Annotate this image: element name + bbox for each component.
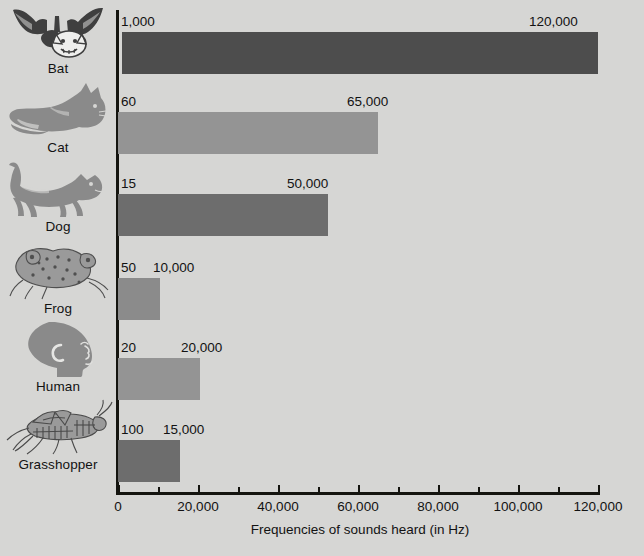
category-cell-frog: Frog xyxy=(0,242,116,316)
category-label-dog: Dog xyxy=(0,219,116,234)
x-axis-title: Frequencies of sounds heard (in Hz) xyxy=(118,522,602,537)
x-tick-label-40000: 40,000 xyxy=(257,499,298,514)
x-tick-60000 xyxy=(358,485,360,493)
x-minor-tick-110000 xyxy=(558,487,560,493)
bar-max-label-frog: 10,000 xyxy=(153,260,194,276)
x-tick-120000 xyxy=(598,485,600,493)
frog-icon xyxy=(3,242,113,300)
x-tick-100000 xyxy=(518,485,520,493)
bar-endlabels-human: 20 20,000 xyxy=(118,340,638,357)
category-label-cat: Cat xyxy=(0,140,116,155)
x-tick-label-120000: 120,000 xyxy=(574,499,623,514)
bar-cat xyxy=(118,112,378,154)
bar-max-label-cat: 65,000 xyxy=(347,94,388,110)
category-label-grasshopper: Grasshopper xyxy=(0,457,116,472)
category-label-frog: Frog xyxy=(0,301,116,316)
bar-dog xyxy=(118,194,328,236)
x-tick-40000 xyxy=(278,485,280,493)
category-cell-human: Human xyxy=(0,320,116,394)
bat-icon xyxy=(3,2,113,60)
x-tick-0 xyxy=(118,485,120,493)
bar-min-label-cat: 60 xyxy=(121,94,136,110)
bar-max-label-dog: 50,000 xyxy=(287,176,328,192)
bar-frog xyxy=(118,278,160,320)
dog-icon xyxy=(3,160,113,218)
bar-human xyxy=(118,358,200,400)
x-axis: 0 20,000 40,000 60,000 80,000 100,000 12… xyxy=(118,492,618,552)
bar-chart-figure: Bat Cat xyxy=(0,0,644,556)
bar-min-label-frog: 50 xyxy=(121,260,136,276)
bar-endlabels-dog: 15 50,000 xyxy=(118,176,638,193)
bar-max-label-human: 20,000 xyxy=(181,340,222,356)
bar-max-label-grasshopper: 15,000 xyxy=(163,422,204,438)
category-cell-dog: Dog xyxy=(0,160,116,234)
x-tick-20000 xyxy=(198,485,200,493)
category-label-bat: Bat xyxy=(0,61,116,76)
bar-min-label-dog: 15 xyxy=(121,176,136,192)
x-minor-tick-10000 xyxy=(158,487,160,493)
x-minor-tick-90000 xyxy=(478,487,480,493)
x-minor-tick-50000 xyxy=(318,487,320,493)
category-cell-cat: Cat xyxy=(0,81,116,155)
bar-min-label-bat: 1,000 xyxy=(121,14,155,30)
category-icon-column: Bat Cat xyxy=(0,0,116,500)
bar-endlabels-cat: 60 65,000 xyxy=(118,94,638,111)
bar-grasshopper xyxy=(118,440,180,482)
category-label-human: Human xyxy=(0,379,116,394)
x-tick-label-60000: 60,000 xyxy=(337,499,378,514)
category-cell-grasshopper: Grasshopper xyxy=(0,398,116,472)
bar-min-label-grasshopper: 100 xyxy=(121,422,144,438)
bar-min-label-human: 20 xyxy=(121,340,136,356)
x-tick-label-100000: 100,000 xyxy=(494,499,543,514)
grasshopper-icon xyxy=(3,398,113,456)
x-tick-80000 xyxy=(438,485,440,493)
human-head-icon xyxy=(3,320,113,378)
cat-icon xyxy=(3,81,113,139)
x-minor-tick-30000 xyxy=(238,487,240,493)
x-tick-label-0: 0 xyxy=(114,499,122,514)
bar-endlabels-frog: 50 10,000 xyxy=(118,260,638,277)
plot-area: 1,000 120,000 60 65,000 15 50,000 50 10,… xyxy=(118,10,618,490)
x-tick-label-80000: 80,000 xyxy=(417,499,458,514)
bar-max-label-bat: 120,000 xyxy=(529,14,578,30)
x-tick-label-20000: 20,000 xyxy=(177,499,218,514)
bar-bat xyxy=(122,32,598,74)
x-minor-tick-70000 xyxy=(398,487,400,493)
bar-endlabels-bat: 1,000 120,000 xyxy=(118,14,638,31)
bar-endlabels-grasshopper: 100 15,000 xyxy=(118,422,638,439)
category-cell-bat: Bat xyxy=(0,2,116,76)
